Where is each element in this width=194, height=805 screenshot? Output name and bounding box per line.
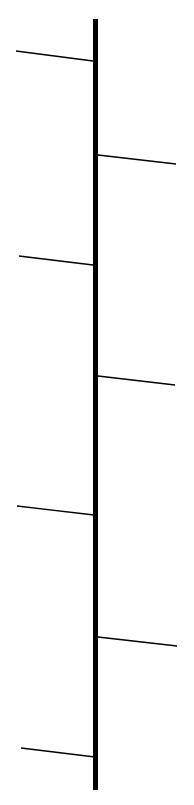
branch-line-left-5 (17, 506, 94, 515)
branch-line-right-6 (98, 637, 177, 646)
timeline-diagram (0, 0, 194, 805)
branch-line-left-1 (16, 51, 93, 61)
branch-line-right-2 (98, 155, 176, 164)
branch-line-left-3 (19, 256, 93, 265)
branch-line-right-4 (98, 376, 175, 385)
branch-line-left-7 (21, 748, 95, 757)
